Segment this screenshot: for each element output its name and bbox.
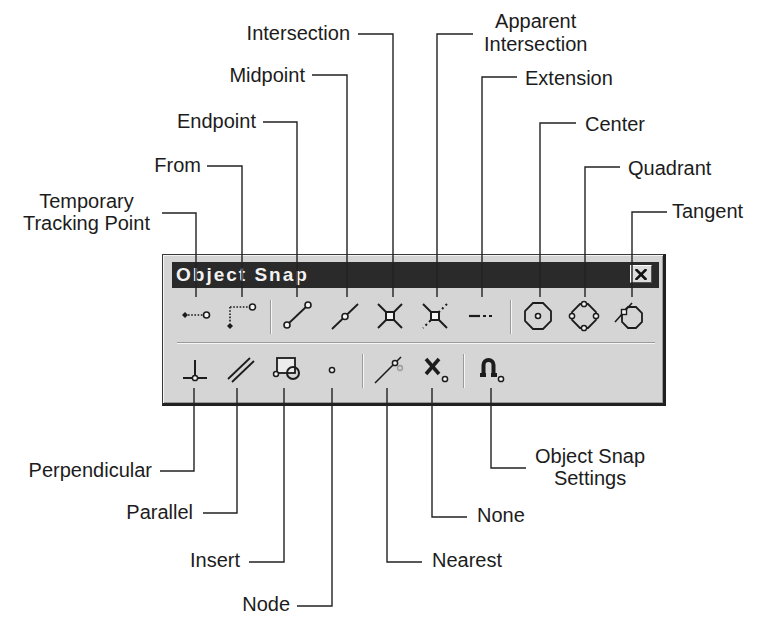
apparent-intersection-button[interactable]: [419, 300, 451, 332]
from-icon: [226, 300, 258, 332]
parallel-button[interactable]: [225, 354, 257, 386]
intersection-button[interactable]: [374, 300, 406, 332]
perpendicular-button[interactable]: [179, 354, 211, 386]
endpoint-button[interactable]: [281, 300, 313, 332]
leader-none: [432, 388, 467, 517]
callout-quadrant: Quadrant: [628, 157, 711, 179]
close-button[interactable]: [630, 265, 652, 283]
close-icon: [635, 269, 647, 280]
object-snap-settings-button[interactable]: [476, 354, 508, 386]
tangent-button[interactable]: [614, 300, 646, 332]
callout-perpendicular: Perpendicular: [29, 459, 152, 481]
toolbar-title: Object Snap: [176, 264, 309, 286]
callout-line: Settings: [535, 467, 645, 489]
toolbar-separator: [463, 354, 465, 388]
object-snap-settings-icon: [476, 354, 508, 386]
callout-line: Intersection: [484, 33, 587, 56]
callout-node: Node: [242, 593, 290, 615]
insert-icon: [269, 354, 301, 386]
object-snap-diagram: Object Snap: [0, 0, 759, 635]
nearest-icon: [372, 354, 404, 386]
endpoint-icon: [281, 300, 313, 332]
perpendicular-icon: [179, 354, 211, 386]
toolbar-separator: [270, 300, 272, 334]
apparent-intersection-icon: [419, 300, 451, 332]
leader-parallel: [203, 388, 237, 513]
callout-extension: Extension: [525, 67, 613, 89]
parallel-icon: [225, 354, 257, 386]
toolbar-separator: [362, 354, 364, 388]
intersection-icon: [374, 300, 406, 332]
insert-button[interactable]: [269, 354, 301, 386]
callout-midpoint: Midpoint: [229, 64, 305, 86]
callout-intersection: Intersection: [247, 22, 350, 44]
node-button[interactable]: [316, 354, 348, 386]
center-button[interactable]: [522, 300, 554, 332]
none-button[interactable]: [417, 354, 449, 386]
callout-temporary-tracking-point: Temporary Tracking Point: [23, 190, 150, 234]
from-button[interactable]: [226, 300, 258, 332]
callout-object-snap-settings: Object Snap Settings: [535, 445, 645, 489]
callout-tangent: Tangent: [672, 200, 743, 222]
temporary-tracking-point-icon: [181, 300, 213, 332]
toolbar-titlebar[interactable]: Object Snap: [172, 262, 659, 288]
node-icon: [316, 354, 348, 386]
callout-none: None: [477, 504, 525, 526]
callout-endpoint: Endpoint: [177, 110, 256, 132]
callout-center: Center: [585, 113, 645, 135]
quadrant-button[interactable]: [568, 300, 600, 332]
center-icon: [522, 300, 554, 332]
callout-line: Object Snap: [535, 445, 645, 467]
midpoint-icon: [329, 300, 361, 332]
leader-insert: [249, 388, 284, 562]
callout-line: Apparent: [484, 10, 587, 33]
midpoint-button[interactable]: [329, 300, 361, 332]
nearest-button[interactable]: [372, 354, 404, 386]
callout-line: Temporary: [23, 190, 150, 212]
callout-from: From: [154, 154, 201, 176]
callout-nearest: Nearest: [432, 549, 502, 571]
extension-button[interactable]: [466, 300, 498, 332]
none-icon: [417, 354, 449, 386]
leader-node: [297, 388, 332, 606]
tangent-icon: [614, 300, 646, 332]
callout-line: Tracking Point: [23, 212, 150, 234]
leader-nearest: [387, 388, 422, 562]
callout-insert: Insert: [190, 549, 240, 571]
toolbar-separator: [510, 300, 512, 334]
temporary-tracking-point-button[interactable]: [181, 300, 213, 332]
extension-icon: [466, 300, 498, 332]
quadrant-icon: [568, 300, 600, 332]
callout-apparent-intersection: Apparent Intersection: [484, 10, 587, 56]
row-divider: [177, 342, 655, 344]
object-snap-toolbar: Object Snap: [162, 254, 666, 406]
callout-parallel: Parallel: [126, 501, 193, 523]
